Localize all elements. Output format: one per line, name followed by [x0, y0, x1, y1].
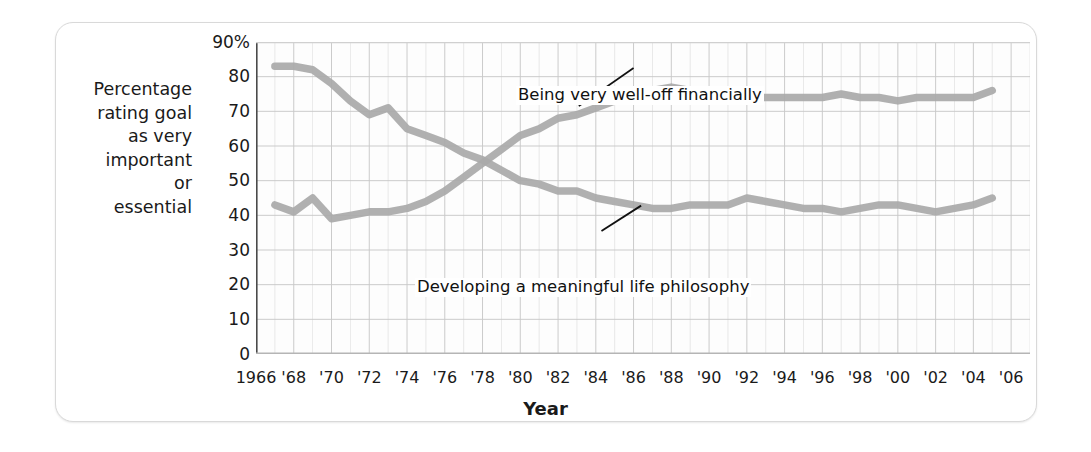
series-label-philosophy: Developing a meaningful life philosophy: [415, 278, 751, 297]
y-caption-line-1: Percentage: [62, 78, 192, 102]
x-tick-1994: '94: [772, 370, 797, 386]
y-tick-10: 10: [194, 311, 250, 328]
x-tick-2000: '00: [885, 370, 910, 386]
y-axis-caption: Percentage rating goal as very important…: [62, 78, 192, 219]
x-tick-1980: '80: [508, 370, 533, 386]
y-caption-line-6: essential: [62, 196, 192, 220]
y-tick-70: 70: [194, 103, 250, 120]
x-tick-1992: '92: [734, 370, 759, 386]
y-tick-80: 80: [194, 68, 250, 85]
y-caption-line-2: rating goal: [62, 102, 192, 126]
x-tick-1990: '90: [697, 370, 722, 386]
x-tick-1984: '84: [583, 370, 608, 386]
x-tick-1998: '98: [848, 370, 873, 386]
x-tick-2004: '04: [961, 370, 986, 386]
x-tick-1968: '68: [281, 370, 306, 386]
x-tick-1972: '72: [357, 370, 382, 386]
y-tick-20: 20: [194, 276, 250, 293]
y-tick-90: 90%: [194, 34, 250, 51]
y-caption-line-3: as very: [62, 125, 192, 149]
y-tick-0: 0: [194, 346, 250, 363]
x-tick-1986: '86: [621, 370, 646, 386]
y-caption-line-5: or: [62, 172, 192, 196]
x-tick-1978: '78: [470, 370, 495, 386]
x-tick-1982: '82: [546, 370, 571, 386]
y-caption-line-4: important: [62, 149, 192, 173]
x-tick-1970: '70: [319, 370, 344, 386]
y-tick-40: 40: [194, 207, 250, 224]
x-tick-1996: '96: [810, 370, 835, 386]
x-tick-1974: '74: [395, 370, 420, 386]
y-tick-50: 50: [194, 172, 250, 189]
x-axis-title: Year: [0, 398, 1091, 419]
y-tick-60: 60: [194, 138, 250, 155]
figure-container: Percentage rating goal as very important…: [0, 0, 1091, 452]
series-label-well-off: Being very well-off financially: [516, 86, 764, 105]
x-tick-1966: 1966: [236, 370, 277, 386]
x-tick-2006: '06: [999, 370, 1024, 386]
x-tick-1988: '88: [659, 370, 684, 386]
y-tick-30: 30: [194, 242, 250, 259]
x-tick-2002: '02: [923, 370, 948, 386]
x-tick-1976: '76: [432, 370, 457, 386]
